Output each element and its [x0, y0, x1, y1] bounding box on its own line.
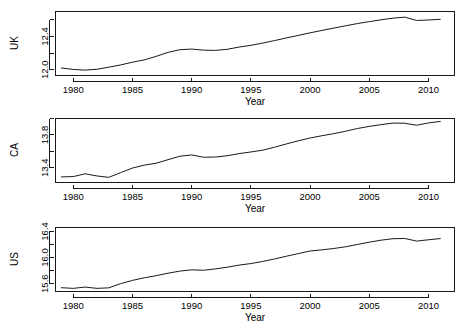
panel-uk-xtick-label: 2010: [418, 84, 439, 95]
panel-us-ytick-label: 15.6: [39, 274, 50, 293]
panel-ca-plot-box: [56, 119, 455, 183]
panel-uk-series-line: [61, 17, 440, 70]
panel-ca-ytick-label: 13.8: [39, 126, 50, 144]
panel-us-plotarea: [50, 228, 455, 298]
panel-ca-svg: 13.413.8 1980198519901995200020052010 CA…: [0, 107, 474, 219]
panel-us-xtick-label: 1980: [63, 300, 84, 311]
panel-us-axis-label-y: US: [9, 252, 20, 266]
panel-us-xtick-labels: 1980198519901995200020052010: [63, 300, 439, 311]
panel-us-xtick-label: 1985: [122, 300, 143, 311]
panel-us-series-line: [61, 238, 440, 288]
panel-ca-xtick-label: 2010: [418, 191, 439, 202]
panel-ca-ytick-labels: 13.413.8: [39, 126, 50, 177]
panel-us-yticks: [50, 231, 54, 283]
panel-uk-xtick-label: 2005: [359, 84, 380, 95]
panel-us-xticks: [73, 294, 428, 298]
panel-uk-plotarea: [50, 12, 455, 82]
panel-uk-ytick-label: 12.0: [39, 60, 50, 79]
panel-ca-axis-label-x: Year: [245, 203, 266, 214]
panel-ca-yticks: [50, 119, 54, 168]
panel-us-xtick-label: 2010: [418, 300, 439, 311]
figure-multipanel-timeseries: 12.012.4 1980198519901995200020052010 UK…: [0, 0, 474, 328]
panel-ca-axis-label-y: CA: [9, 143, 20, 157]
panel-ca: 13.413.8 1980198519901995200020052010 CA…: [0, 107, 474, 216]
panel-ca-xtick-label: 1985: [122, 191, 143, 202]
panel-uk-axis-label-y: UK: [9, 36, 20, 50]
panel-uk-xtick-label: 1995: [240, 84, 261, 95]
panel-us-xtick-label: 1995: [240, 300, 261, 311]
panel-uk-xticks: [73, 78, 428, 82]
panel-us-ytick-label: 16.0: [39, 248, 50, 267]
panel-ca-xticks: [73, 185, 428, 189]
panel-us-svg: 15.616.016.4 198019851990199520002005201…: [0, 216, 474, 328]
panel-us-axis-label-x: Year: [245, 312, 266, 323]
panel-ca-xtick-label: 2005: [359, 191, 380, 202]
panel-us-ytick-label: 16.4: [39, 222, 50, 241]
panel-us-xtick-label: 1990: [181, 300, 202, 311]
panel-uk-xtick-label: 1985: [122, 84, 143, 95]
panel-us-xtick-label: 2005: [359, 300, 380, 311]
panel-us: 15.616.016.4 198019851990199520002005201…: [0, 216, 474, 325]
panel-ca-xtick-label: 2000: [299, 191, 320, 202]
panel-ca-xtick-label: 1990: [181, 191, 202, 202]
panel-ca-ytick-label: 13.4: [39, 158, 50, 177]
panel-us-plot-box: [56, 228, 455, 292]
panel-uk-xtick-labels: 1980198519901995200020052010: [63, 84, 439, 95]
panel-uk-yticks: [50, 20, 54, 70]
panel-uk-xtick-label: 2000: [299, 84, 320, 95]
panel-ca-xtick-labels: 1980198519901995200020052010: [63, 191, 439, 202]
panel-uk-axis-label-x: Year: [245, 96, 266, 107]
panel-uk-xtick-label: 1990: [181, 84, 202, 95]
panel-uk-xtick-label: 1980: [63, 84, 84, 95]
panel-ca-xtick-label: 1980: [63, 191, 84, 202]
panel-uk: 12.012.4 1980198519901995200020052010 UK…: [0, 0, 474, 109]
panel-us-xtick-label: 2000: [299, 300, 320, 311]
panel-uk-svg: 12.012.4 1980198519901995200020052010 UK…: [0, 0, 474, 112]
panel-ca-series-line: [61, 121, 440, 177]
panel-uk-ytick-label: 12.4: [39, 27, 50, 46]
panel-us-ytick-labels: 15.616.016.4: [39, 222, 50, 293]
panel-ca-xtick-label: 1995: [240, 191, 261, 202]
panel-uk-ytick-labels: 12.012.4: [39, 27, 50, 79]
panel-ca-plotarea: [50, 119, 455, 189]
